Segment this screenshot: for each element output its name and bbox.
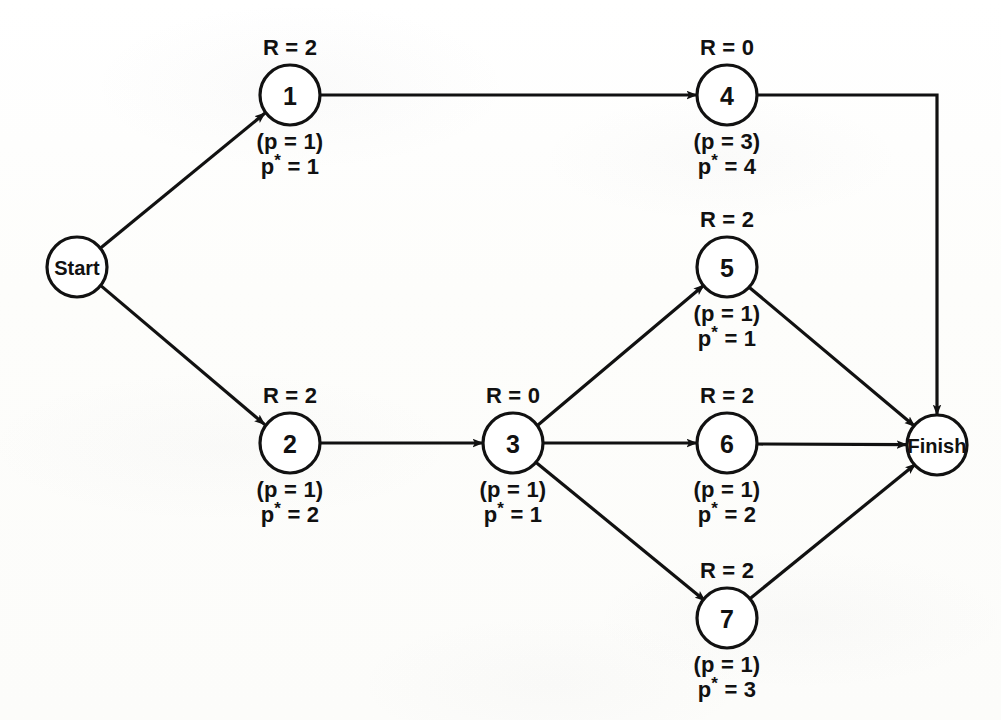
node-4-pstar-prefix: p: [698, 154, 712, 179]
node-3-pstar-prefix: p: [484, 502, 498, 527]
node-6-resource-label: R = 2: [700, 385, 754, 408]
edge-3-to-5: [537, 285, 704, 426]
node-7-priority-star-label: p* = 3: [698, 679, 757, 702]
node-5-priority-label: (p = 1): [694, 303, 761, 326]
node-3-label: 3: [506, 430, 520, 458]
node-4-pstar-suffix: = 4: [718, 154, 756, 179]
node-2-priority-label: (p = 1): [257, 479, 324, 502]
node-6-priority-star-label: p* = 2: [698, 504, 757, 527]
node-start[interactable]: Start: [47, 237, 107, 297]
node-5[interactable]: 5: [697, 237, 757, 297]
node-2[interactable]: 2: [260, 413, 320, 473]
edge-4-to-finish: [757, 95, 937, 415]
node-5-pstar-prefix: p: [698, 326, 712, 351]
network-graph: Start 1 2 3 4 5: [0, 0, 1001, 720]
network-diagram-page: Start 1 2 3 4 5: [0, 0, 1001, 720]
edge-6-to-finish: [757, 444, 907, 445]
node-7-label: 7: [720, 605, 734, 633]
node-4-priority-label: (p = 3): [694, 131, 761, 154]
edge-3-to-7: [536, 462, 705, 601]
node-2-resource-label: R = 2: [263, 385, 317, 408]
node-6-label: 6: [720, 430, 734, 458]
node-5-pstar-suffix: = 1: [718, 326, 756, 351]
node-3[interactable]: 3: [483, 413, 543, 473]
node-6-pstar-suffix: = 2: [718, 502, 756, 527]
node-1-pstar-suffix: = 1: [281, 154, 319, 179]
node-5-priority-star-label: p* = 1: [698, 328, 757, 351]
node-2-label: 2: [283, 430, 297, 458]
node-4-priority-star-label: p* = 4: [698, 156, 757, 179]
edge-5-to-finish: [749, 287, 915, 426]
node-7-pstar-suffix: = 3: [718, 677, 756, 702]
node-finish[interactable]: Finish: [907, 415, 967, 475]
node-6-priority-label: (p = 1): [694, 479, 761, 502]
node-7-resource-label: R = 2: [700, 560, 754, 583]
node-1-pstar-prefix: p: [261, 154, 275, 179]
node-4-label: 4: [720, 82, 734, 110]
node-3-resource-label: R = 0: [486, 385, 540, 408]
node-4[interactable]: 4: [697, 65, 757, 125]
node-3-pstar-suffix: = 1: [504, 502, 542, 527]
node-2-pstar-prefix: p: [261, 502, 275, 527]
node-1-priority-label: (p = 1): [257, 131, 324, 154]
node-3-priority-label: (p = 1): [480, 479, 547, 502]
node-7-priority-label: (p = 1): [694, 654, 761, 677]
node-start-label: Start: [54, 257, 100, 279]
node-4-resource-label: R = 0: [700, 37, 754, 60]
node-5-resource-label: R = 2: [700, 209, 754, 232]
node-5-label: 5: [720, 254, 734, 282]
node-1-resource-label: R = 2: [263, 37, 317, 60]
node-1-label: 1: [283, 82, 297, 110]
edge-start-to-2: [101, 286, 265, 425]
node-2-pstar-suffix: = 2: [281, 502, 319, 527]
node-1-priority-star-label: p* = 1: [261, 156, 320, 179]
node-7[interactable]: 7: [697, 588, 757, 648]
node-finish-label: Finish: [908, 435, 967, 457]
edge-start-to-1: [100, 113, 265, 248]
node-6[interactable]: 6: [697, 413, 757, 473]
node-6-pstar-prefix: p: [698, 502, 712, 527]
edge-7-to-finish: [750, 464, 915, 599]
node-7-pstar-prefix: p: [698, 677, 712, 702]
node-2-priority-star-label: p* = 2: [261, 504, 320, 527]
node-3-priority-star-label: p* = 1: [484, 504, 543, 527]
node-1[interactable]: 1: [260, 65, 320, 125]
